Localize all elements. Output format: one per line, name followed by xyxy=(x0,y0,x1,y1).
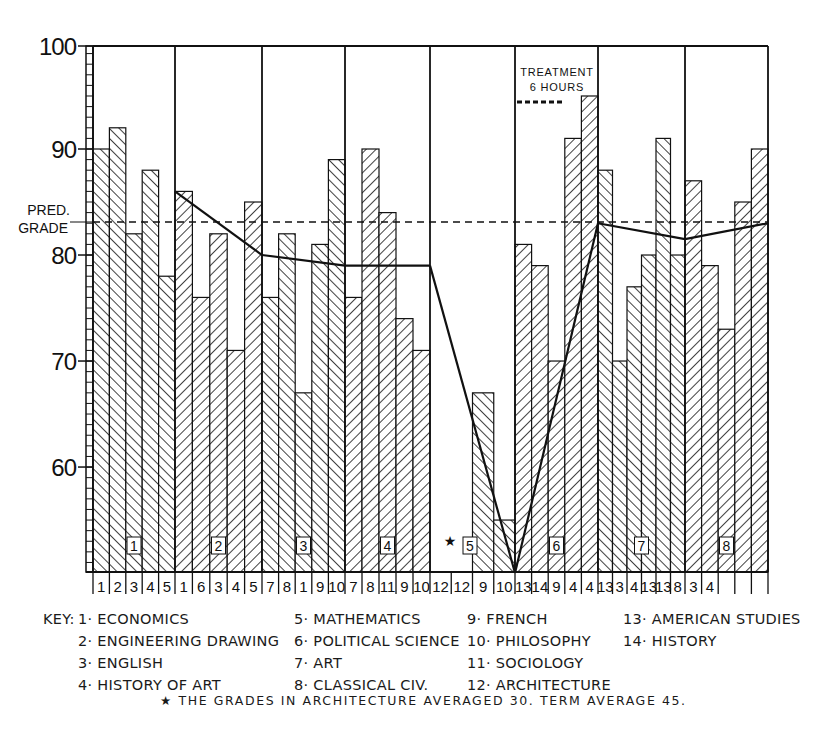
x-axis-ticks: 1234516345781910781191012129101314944133… xyxy=(93,572,768,595)
star-icon: ★ xyxy=(444,533,457,549)
bar xyxy=(718,329,735,572)
x-tick-label: 4 xyxy=(706,578,714,595)
x-tick-label: 3 xyxy=(689,578,697,595)
svg-text:PRED.: PRED. xyxy=(27,202,70,218)
bar xyxy=(396,319,413,572)
bar xyxy=(142,170,158,572)
x-tick-label: 1 xyxy=(97,578,105,595)
bar xyxy=(671,255,686,572)
x-tick-label: 14 xyxy=(532,578,549,595)
legend-key-prefix: KEY: xyxy=(43,611,75,627)
footnote-text: THE GRADES IN ARCHITECTURE AVERAGED 30. … xyxy=(178,693,686,708)
x-tick-label: 8 xyxy=(674,578,682,595)
svg-text:TREATMENT: TREATMENT xyxy=(520,66,594,78)
legend-item: 5· MATHEMATICS xyxy=(294,611,421,627)
x-tick-label: 13 xyxy=(515,578,532,595)
bar xyxy=(126,234,142,572)
svg-text:GRADE: GRADE xyxy=(18,220,68,236)
group-label: 7 xyxy=(638,538,646,554)
bar xyxy=(515,244,532,572)
bar xyxy=(312,244,329,572)
bar xyxy=(581,96,598,572)
bar xyxy=(245,202,262,572)
x-tick-label: 10 xyxy=(496,578,513,595)
x-tick-label: 7 xyxy=(349,578,357,595)
legend-item: 6· POLITICAL SCIENCE xyxy=(294,633,460,649)
bar xyxy=(532,266,549,572)
x-tick-label: 7 xyxy=(266,578,274,595)
bar xyxy=(159,276,175,572)
x-tick-label: 9 xyxy=(479,578,487,595)
x-tick-label: 8 xyxy=(283,578,291,595)
y-tick-label: 100 xyxy=(39,33,77,60)
bar xyxy=(227,350,244,572)
y-tick-label: 70 xyxy=(51,348,76,375)
group-label: 4 xyxy=(384,538,392,554)
svg-text:6 HOURS: 6 HOURS xyxy=(530,81,585,93)
x-tick-label: 4 xyxy=(569,578,577,595)
x-tick-label: 6 xyxy=(197,578,205,595)
group-label: 1 xyxy=(130,538,138,554)
legend-item: 3· ENGLISH xyxy=(78,655,163,671)
legend-item: 11· SOCIOLOGY xyxy=(467,655,583,671)
legend-item: 1· ECONOMICS xyxy=(78,611,189,627)
x-tick-label: 10 xyxy=(413,578,430,595)
bar xyxy=(413,350,430,572)
x-tick-label: 5 xyxy=(249,578,257,595)
star-icon: ★ xyxy=(160,693,173,708)
bar xyxy=(210,234,227,572)
bar xyxy=(279,234,296,572)
x-tick-label: 4 xyxy=(232,578,240,595)
x-tick-label: 8 xyxy=(366,578,374,595)
legend-item: 10· PHILOSOPHY xyxy=(467,633,591,649)
legend-item: 14· HISTORY xyxy=(623,633,717,649)
bar xyxy=(262,297,279,572)
x-tick-label: 3 xyxy=(130,578,138,595)
grades-bar-chart: 60708090100PRED.GRADE 12345678★ 12345163… xyxy=(0,0,817,600)
group-label: 8 xyxy=(723,538,731,554)
bar xyxy=(613,361,628,572)
legend-item: 2· ENGINEERING DRAWING xyxy=(78,633,279,649)
x-tick-label: 3 xyxy=(616,578,624,595)
y-tick-label: 90 xyxy=(51,136,76,163)
bar xyxy=(627,287,642,572)
x-tick-label: 4 xyxy=(586,578,594,595)
x-tick-label: 13 xyxy=(655,578,672,595)
bar xyxy=(345,297,362,572)
bar xyxy=(93,149,109,572)
x-tick-label: 5 xyxy=(163,578,171,595)
y-tick-label: 60 xyxy=(51,454,76,481)
bar xyxy=(735,202,752,572)
group-label: 5 xyxy=(466,538,474,554)
group-label: 6 xyxy=(553,538,561,554)
x-tick-label: 12 xyxy=(432,578,449,595)
legend-item: 12· ARCHITECTURE xyxy=(467,677,611,693)
legend-item: 8· CLASSICAL CIV. xyxy=(294,677,428,693)
bar xyxy=(642,255,657,572)
legend-item: 4· HISTORY OF ART xyxy=(78,677,221,693)
bar xyxy=(656,138,671,572)
legend-item: 7· ART xyxy=(294,655,342,671)
bar xyxy=(751,149,768,572)
x-tick-label: 2 xyxy=(113,578,121,595)
x-tick-label: 3 xyxy=(214,578,222,595)
group-label: 2 xyxy=(215,538,223,554)
x-tick-label: 11 xyxy=(380,578,396,595)
x-tick-label: 9 xyxy=(316,578,324,595)
bar xyxy=(192,297,209,572)
bar xyxy=(109,128,125,572)
y-tick-label: 80 xyxy=(51,242,76,269)
x-tick-label: 4 xyxy=(146,578,154,595)
x-tick-label: 9 xyxy=(552,578,560,595)
x-tick-label: 1 xyxy=(299,578,307,595)
x-tick-label: 9 xyxy=(400,578,408,595)
x-tick-label: 1 xyxy=(180,578,188,595)
bar xyxy=(702,266,719,572)
x-tick-label: 13 xyxy=(597,578,614,595)
y-axis: 60708090100PRED.GRADE xyxy=(18,33,93,572)
group-label: 3 xyxy=(300,538,308,554)
footnote: ★ THE GRADES IN ARCHITECTURE AVERAGED 30… xyxy=(160,693,687,708)
x-tick-label: 10 xyxy=(328,578,345,595)
x-tick-label: 12 xyxy=(454,578,471,595)
bar xyxy=(175,191,192,572)
